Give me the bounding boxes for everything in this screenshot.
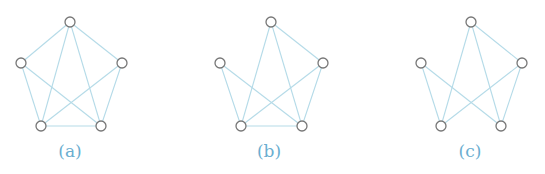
node-right [517, 58, 527, 68]
panel-label: (b) [257, 141, 281, 161]
edge-top-br [471, 22, 501, 126]
edge-right-bl [241, 63, 323, 126]
edge-top-left [21, 22, 70, 63]
edge-right-br [501, 63, 522, 126]
panel-c: (c) [416, 17, 527, 161]
node-bl [236, 121, 246, 131]
edge-right-br [302, 63, 323, 126]
node-br [96, 121, 106, 131]
edge-right-bl [441, 63, 522, 126]
edge-top-br [271, 22, 302, 126]
panel-label: (c) [459, 141, 482, 161]
node-top [466, 17, 476, 27]
edge-right-br [101, 63, 122, 126]
edge-left-br [21, 63, 101, 126]
edge-left-br [421, 63, 501, 126]
node-right [318, 58, 328, 68]
node-bl [436, 121, 446, 131]
edge-top-right [471, 22, 522, 63]
node-left [416, 58, 426, 68]
node-top [65, 17, 75, 27]
edge-left-bl [220, 63, 241, 126]
edge-left-br [220, 63, 302, 126]
node-bl [36, 121, 46, 131]
node-br [496, 121, 506, 131]
edge-top-bl [441, 22, 471, 126]
edge-top-bl [41, 22, 70, 126]
panel-b: (b) [215, 17, 328, 161]
node-top [266, 17, 276, 27]
edge-right-bl [41, 63, 122, 126]
edge-top-bl [241, 22, 271, 126]
graph-figure: (a) (b) (c) [0, 0, 545, 174]
panel-a: (a) [16, 17, 127, 161]
node-left [215, 58, 225, 68]
edge-top-right [70, 22, 122, 63]
edge-left-bl [21, 63, 41, 126]
node-left [16, 58, 26, 68]
panel-label: (a) [58, 141, 81, 161]
edge-left-bl [421, 63, 441, 126]
edge-top-br [70, 22, 101, 126]
node-br [297, 121, 307, 131]
node-right [117, 58, 127, 68]
edge-top-right [271, 22, 323, 63]
